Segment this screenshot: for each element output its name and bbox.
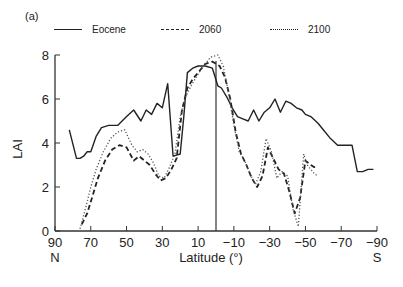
- y-tick-label: 2: [42, 180, 49, 195]
- data-series: [69, 55, 373, 229]
- x-tick-label: 30: [155, 235, 169, 250]
- series-eocene: [69, 66, 373, 172]
- x-tick-label: −50: [294, 235, 316, 250]
- y-tick-label: 4: [42, 136, 49, 151]
- y-tick-label: 8: [42, 48, 49, 63]
- x-tick-label: 10: [191, 235, 205, 250]
- x-tick-label: 50: [119, 235, 133, 250]
- x-tick-label: 70: [84, 235, 98, 250]
- x-tick-label: −10: [223, 235, 245, 250]
- south-label: S: [373, 250, 382, 265]
- series-2100: [80, 55, 318, 229]
- north-label: N: [50, 250, 59, 265]
- x-tick-label: −30: [259, 235, 281, 250]
- y-axis-title: LAI: [10, 139, 25, 159]
- x-tick-label: −90: [366, 235, 388, 250]
- x-tick-label: −70: [330, 235, 352, 250]
- y-tick-label: 0: [42, 224, 49, 239]
- y-tick-label: 6: [42, 92, 49, 107]
- x-axis-title: Latitude (°): [179, 250, 243, 265]
- series-2060: [82, 62, 318, 225]
- line-chart: 9070503010−10−30−50−70−9002468 LAI Latit…: [0, 0, 403, 287]
- x-tick-label: 90: [48, 235, 62, 250]
